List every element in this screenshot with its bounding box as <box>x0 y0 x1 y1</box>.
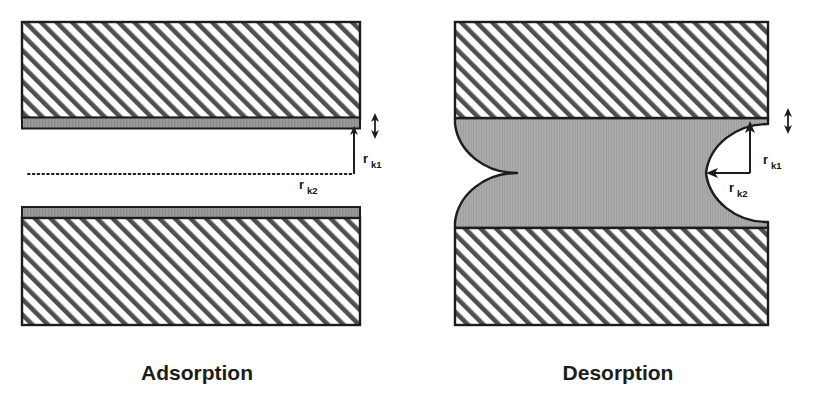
adsorption-rk2-base: r <box>299 177 304 192</box>
adsorption-rk1-subscript: k1 <box>371 159 382 170</box>
caption-adsorption: Adsorption <box>141 361 253 384</box>
desorption-rk2-subscript: k2 <box>737 188 748 199</box>
desorption-rk1-subscript: k1 <box>771 160 782 171</box>
adsorption-rk1-base: r <box>363 151 368 166</box>
adsorption-lower-solid-wall <box>22 218 360 325</box>
adsorption-lower-adsorbed-film <box>22 207 360 218</box>
desorption-rk1-base: r <box>763 152 768 167</box>
adsorption-rk2-subscript: k2 <box>307 185 318 196</box>
desorption-lower-solid-wall <box>455 228 768 325</box>
caption-desorption: Desorption <box>563 361 674 384</box>
adsorption-upper-solid-wall <box>22 22 360 118</box>
desorption-rk2-base: r <box>729 180 734 195</box>
capillary-condensation-diagram: r k1 r k2 Adsorption <box>0 0 820 411</box>
desorption-upper-solid-wall <box>455 22 768 118</box>
figure-root: r k1 r k2 Adsorption <box>0 0 820 411</box>
adsorption-upper-adsorbed-film <box>22 118 360 129</box>
